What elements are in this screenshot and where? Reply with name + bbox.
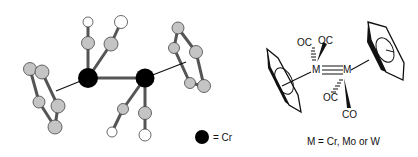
- ball-and-stick-model: = Cr: [24, 16, 233, 145]
- cp-ring-left-formula: [267, 49, 311, 112]
- cr-atom-left: [78, 68, 98, 88]
- structural-formula: M M OC OC OC CO M = Cr, Mo or W: [267, 22, 404, 147]
- metal-label-right: M: [343, 64, 351, 75]
- cr-atom-right: [136, 69, 155, 88]
- bonds: [30, 22, 204, 135]
- diagram-canvas: = Cr: [0, 0, 418, 157]
- carbonyl-label: OC: [323, 92, 338, 103]
- hashed-bond: [331, 80, 343, 92]
- legend-label: = Cr: [213, 132, 233, 143]
- wedge-bond: [344, 78, 351, 108]
- legend-cr-atom-icon: [195, 130, 209, 144]
- metal-label-left: M: [312, 64, 320, 75]
- triple-bond: [322, 66, 343, 74]
- carbonyl-label: OC: [318, 35, 333, 46]
- carbonyl-label: OC: [297, 37, 312, 48]
- metal-caption: M = Cr, Mo or W: [307, 136, 381, 147]
- cp-ring-right-formula: [351, 22, 404, 80]
- carbonyl-label: CO: [342, 109, 357, 120]
- figure: = Cr: [0, 0, 418, 157]
- hashed-bond: [311, 48, 316, 60]
